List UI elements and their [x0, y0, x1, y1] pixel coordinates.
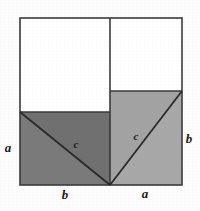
label-right-hypotenuse-c: c — [134, 130, 139, 142]
geometry-figure: a b a b c c — [0, 0, 200, 211]
label-bottom-right-a: a — [142, 186, 149, 201]
figure-canvas: a b a b c c — [0, 0, 200, 211]
label-bottom-left-b: b — [62, 187, 69, 202]
label-left-hypotenuse-c: c — [74, 138, 79, 150]
label-left-side-a: a — [5, 140, 12, 155]
label-right-side-b: b — [186, 131, 193, 146]
